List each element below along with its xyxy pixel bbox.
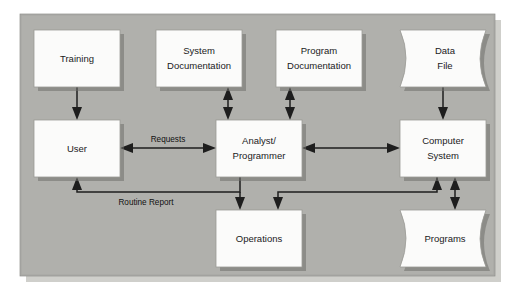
node-operations[interactable]: Operations [216, 210, 306, 271]
node-training[interactable]: Training [34, 30, 124, 91]
node-computer-system[interactable]: Computer System [400, 120, 490, 181]
node-computer-system-label-line2: System [427, 150, 459, 161]
node-data-file-label-line1: Data [435, 45, 456, 56]
node-analyst-programmer-label-line2: Programmer [233, 150, 286, 161]
node-user[interactable]: User [34, 120, 124, 181]
node-computer-system-label-line1: Computer [422, 135, 464, 146]
node-program-documentation-label-line2: Documentation [287, 60, 351, 71]
node-program-documentation-label-line1: Program [301, 45, 338, 56]
node-user-label: User [67, 143, 87, 154]
node-program-documentation[interactable]: Program Documentation [276, 30, 366, 91]
node-data-file-label-line2: File [437, 60, 452, 71]
flowchart-canvas: Training System Documentation Program Do… [0, 0, 515, 300]
node-programs-label: Programs [424, 233, 465, 244]
node-programs[interactable]: Programs [400, 210, 490, 271]
node-system-documentation-label-line2: Documentation [167, 60, 231, 71]
node-analyst-programmer-label-line1: Analyst/ [242, 135, 276, 146]
edge-label-requests: Requests [151, 135, 186, 144]
node-data-file[interactable]: Data File [400, 30, 490, 91]
node-operations-label: Operations [236, 233, 283, 244]
node-training-label: Training [60, 53, 94, 64]
node-system-documentation-label-line1: System [183, 45, 215, 56]
diagram-root: Training System Documentation Program Do… [0, 0, 515, 300]
node-system-documentation[interactable]: System Documentation [156, 30, 246, 91]
node-analyst-programmer[interactable]: Analyst/ Programmer [216, 120, 306, 181]
edge-label-routine-report: Routine Report [118, 198, 174, 207]
